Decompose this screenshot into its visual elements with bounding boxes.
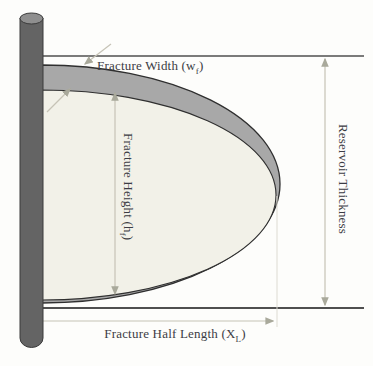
fracture-half-length-label: Fracture Half Length (XL) — [95, 326, 255, 342]
fracture-half-length-label-close: ) — [241, 326, 246, 341]
wellbore-top-cap — [20, 13, 43, 24]
wellbore — [20, 18, 43, 348]
reservoir-thickness-label: Reservoir Thickness — [335, 124, 351, 234]
fracture-half-length-label-text: Fracture Half Length (X — [104, 326, 235, 341]
fracture-height-label-close: ) — [121, 236, 136, 241]
diagram-canvas — [0, 0, 373, 366]
fracture-height-label: Fracture Height (hf) — [120, 133, 136, 240]
fracture-diagram: Fracture Width (wf) Fracture Height (hf)… — [0, 0, 373, 366]
fracture-height-label-text: Fracture Height (h — [121, 133, 136, 233]
fracture-width-label-close: ) — [199, 58, 204, 73]
fracture-width-label-text: Fracture Width (w — [97, 58, 196, 73]
reservoir-thickness-label-text: Reservoir Thickness — [336, 124, 351, 234]
fracture-width-label: Fracture Width (wf) — [97, 58, 203, 74]
